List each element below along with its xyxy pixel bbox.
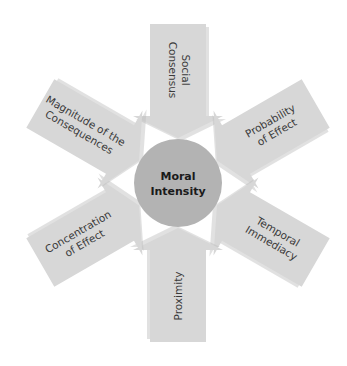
hub-label-line2: Intensity xyxy=(150,185,205,198)
arrow-proximity: Proximity xyxy=(130,225,223,342)
hub-circle xyxy=(134,139,222,227)
arrow-social-consensus: Social Consensus xyxy=(133,24,226,141)
factor-label-line1: Proximity xyxy=(172,272,184,321)
center-hub: Moral Intensity xyxy=(134,139,222,227)
hub-label-line1: Moral xyxy=(160,170,195,183)
factor-label-line2: Consensus xyxy=(167,42,179,99)
factor-label-line1: Social xyxy=(180,54,192,85)
moral-intensity-diagram: Social Consensus Probability of Effect T… xyxy=(0,0,347,366)
